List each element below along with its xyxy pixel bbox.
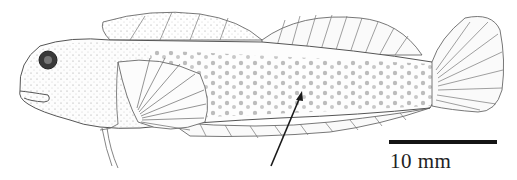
scale-bar <box>389 140 497 144</box>
caudal-fin <box>432 17 504 113</box>
pelvic-fin <box>102 128 118 168</box>
dorsal-fin-anterior <box>102 12 262 40</box>
scale-bar-label: 10 mm <box>390 149 451 174</box>
